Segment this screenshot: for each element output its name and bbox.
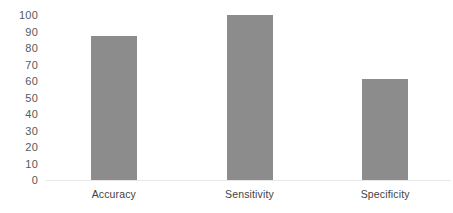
y-axis: 0102030405060708090100 xyxy=(0,0,46,213)
y-axis-tick-label: 40 xyxy=(25,109,38,120)
y-axis-tick-label: 70 xyxy=(25,59,38,70)
y-axis-tick-label: 80 xyxy=(25,43,38,54)
y-axis-tick-label: 100 xyxy=(19,10,38,21)
bar-chart: 0102030405060708090100 AccuracySensitivi… xyxy=(0,0,453,213)
y-axis-tick-label: 60 xyxy=(25,76,38,87)
bar xyxy=(91,36,137,180)
plot-area: AccuracySensitivitySpecificity xyxy=(46,0,453,213)
x-axis-category-label: Specificity xyxy=(361,188,410,200)
y-axis-tick-label: 30 xyxy=(25,125,38,136)
bar xyxy=(227,15,273,180)
bar xyxy=(362,79,408,180)
y-axis-tick-label: 90 xyxy=(25,26,38,37)
y-axis-tick-label: 50 xyxy=(25,92,38,103)
x-axis-category-label: Sensitivity xyxy=(225,188,274,200)
axis-baseline xyxy=(46,180,451,181)
y-axis-tick-label: 10 xyxy=(25,158,38,169)
x-axis-category-label: Accuracy xyxy=(92,188,136,200)
y-axis-tick-label: 0 xyxy=(32,175,38,186)
y-axis-tick-label: 20 xyxy=(25,142,38,153)
